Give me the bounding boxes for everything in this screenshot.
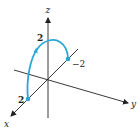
diagram-canvas: z y x 2 2 −2	[0, 0, 140, 135]
z-axis-label: z	[45, 5, 51, 15]
x-axis-label: x	[4, 119, 9, 129]
curve-start-point	[26, 97, 31, 102]
curve-end-point	[66, 57, 71, 62]
y-axis-label: y	[130, 99, 137, 109]
x-tick-label: 2	[18, 95, 24, 105]
3d-curve-figure: z y x 2 2 −2	[0, 0, 140, 135]
y-tick-label: −2	[72, 59, 85, 69]
y-axis	[14, 70, 128, 103]
z-tick-label: 2	[37, 33, 43, 43]
